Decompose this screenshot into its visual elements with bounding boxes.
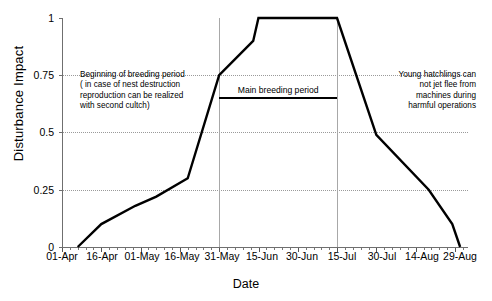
x-tick-minor xyxy=(172,248,173,250)
x-tick-major xyxy=(141,248,142,252)
x-tick-minor xyxy=(148,248,149,250)
annotation-right-line-1: Young hatchlings can xyxy=(372,70,476,80)
x-tick-minor xyxy=(251,248,252,250)
x-tick-minor xyxy=(125,248,126,250)
x-tick-minor xyxy=(109,248,110,250)
y-tick-label-05: 0.5 xyxy=(20,127,54,137)
x-tick-major xyxy=(376,248,377,252)
x-tick-minor xyxy=(447,248,448,250)
x-tick-minor xyxy=(156,248,157,250)
annotation-right-line-4: harmful operations xyxy=(372,101,476,111)
annotation-begin-line-3: reproduction can be realized xyxy=(80,91,198,101)
x-tick-major xyxy=(101,248,102,252)
x-tick-minor xyxy=(86,248,87,250)
disturbance-impact-chart: Disturbance Impact 1 0.75 0.5 0.25 0 Mai… xyxy=(0,0,492,301)
y-axis-label: Disturbance Impact xyxy=(11,0,26,214)
annotation-beginning-of-breeding-period: Beginning of breeding period ( in case o… xyxy=(80,70,198,112)
gridline-05 xyxy=(62,132,468,133)
x-tick-minor xyxy=(345,248,346,250)
x-tick-minor xyxy=(369,248,370,250)
x-tick-minor xyxy=(235,248,236,250)
x-tick-major xyxy=(455,248,456,252)
annotation-young-hatchlings: Young hatchlings can not jet flee from m… xyxy=(372,70,476,112)
x-tick-minor xyxy=(70,248,71,250)
x-axis-label: Date xyxy=(0,277,492,291)
x-tick-major xyxy=(337,248,338,252)
vertical-marker-31-may xyxy=(219,18,220,247)
x-tick-minor xyxy=(463,248,464,250)
x-tick-minor xyxy=(203,248,204,250)
annotation-main-breeding-period: Main breeding period xyxy=(219,85,337,95)
main-breeding-period-bar xyxy=(219,97,337,99)
x-tick-major xyxy=(219,248,220,252)
x-tick-minor xyxy=(329,248,330,250)
x-tick-minor xyxy=(424,248,425,250)
gridline-025 xyxy=(62,190,468,191)
x-tick-minor xyxy=(164,248,165,250)
x-tick-minor xyxy=(408,248,409,250)
x-tick-minor xyxy=(117,248,118,250)
x-tick-minor xyxy=(431,248,432,250)
x-tick-major xyxy=(62,248,63,252)
x-tick-minor xyxy=(188,248,189,250)
x-tick-major xyxy=(180,248,181,252)
vertical-marker-15-jul xyxy=(337,18,338,247)
x-tick-major xyxy=(298,248,299,252)
y-tick-label-1: 1 xyxy=(20,13,54,23)
x-tick-minor xyxy=(353,248,354,250)
x-tick-minor xyxy=(290,248,291,250)
x-tick-minor xyxy=(133,248,134,250)
x-tick-minor xyxy=(274,248,275,250)
x-tick-minor xyxy=(196,248,197,250)
x-tick-minor xyxy=(93,248,94,250)
annotation-right-line-2: not jet flee from xyxy=(372,80,476,90)
annotation-main-text: Main breeding period xyxy=(238,85,319,95)
annotation-begin-line-4: with second cultch) xyxy=(80,101,198,111)
x-tick-minor xyxy=(243,248,244,250)
x-tick-label-29-aug: 29-Aug xyxy=(437,251,483,262)
y-axis-line xyxy=(62,18,63,247)
x-tick-minor xyxy=(400,248,401,250)
annotation-begin-line-2: ( in case of nest destruction xyxy=(80,80,198,90)
x-tick-minor xyxy=(321,248,322,250)
annotation-begin-line-1: Beginning of breeding period xyxy=(80,70,198,80)
x-tick-minor xyxy=(78,248,79,250)
annotation-right-line-3: machines during xyxy=(372,91,476,101)
x-tick-major xyxy=(259,248,260,252)
x-tick-major xyxy=(416,248,417,252)
x-tick-minor xyxy=(314,248,315,250)
y-tick-label-075: 0.75 xyxy=(20,70,54,80)
x-tick-minor xyxy=(439,248,440,250)
x-tick-minor xyxy=(266,248,267,250)
x-tick-minor xyxy=(211,248,212,250)
x-tick-minor xyxy=(384,248,385,250)
x-tick-minor xyxy=(392,248,393,250)
x-tick-minor xyxy=(306,248,307,250)
x-tick-minor xyxy=(361,248,362,250)
y-tick-label-025: 0.25 xyxy=(20,185,54,195)
x-tick-minor xyxy=(227,248,228,250)
x-tick-minor xyxy=(282,248,283,250)
